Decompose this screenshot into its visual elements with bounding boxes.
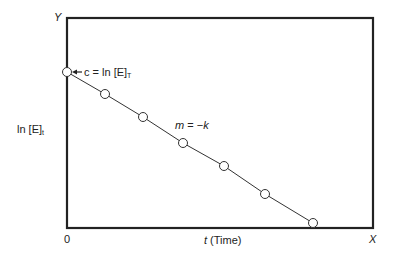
slope-eq: = − (184, 119, 203, 131)
x-axis-label: X (369, 234, 376, 245)
slope-k: k (203, 119, 209, 131)
x-title-rest: (Time) (207, 234, 241, 246)
slope-var: m (175, 119, 184, 131)
y-title-main: ln [E] (17, 123, 42, 135)
y-title: ln [E]t (17, 124, 44, 136)
intercept-arrow-icon (72, 70, 82, 75)
intercept-sub: T (127, 72, 131, 79)
intercept-annotation: c = ln [E]T (84, 67, 131, 79)
intercept-main: c = ln [E] (84, 66, 127, 78)
x-title: t (Time) (204, 235, 241, 246)
origin-label: 0 (64, 234, 70, 245)
y-axis-label: Y (54, 12, 61, 23)
plot-frame (67, 18, 373, 228)
y-title-sub: t (42, 129, 44, 136)
slope-annotation: m = −k (175, 120, 209, 131)
